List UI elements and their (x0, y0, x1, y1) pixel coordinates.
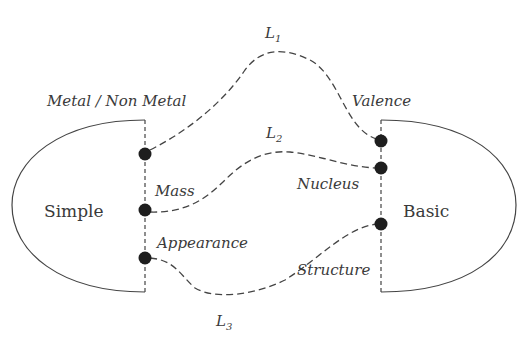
node-metal-nonmetal (139, 148, 152, 161)
link-label-l3: L3 (215, 312, 232, 332)
attr-nucleus: Nucleus (296, 175, 360, 193)
attr-structure: Structure (297, 261, 370, 279)
right-group-basic: Basic (381, 120, 516, 292)
left-group-simple: Simple (12, 120, 145, 292)
right-group-label: Basic (403, 201, 449, 221)
link-label-l1: L1 (264, 24, 281, 44)
node-structure (375, 218, 388, 231)
attr-valence: Valence (352, 92, 411, 110)
attr-metal-nonmetal: Metal / Non Metal (46, 92, 186, 110)
node-mass (139, 204, 152, 217)
node-nucleus (375, 162, 388, 175)
node-valence (375, 135, 388, 148)
attr-mass: Mass (154, 182, 195, 200)
link-label-l2: L2 (265, 124, 282, 144)
left-group-label: Simple (44, 201, 104, 221)
attr-appearance: Appearance (155, 234, 248, 252)
node-appearance (139, 252, 152, 265)
concept-mapping-diagram: Simple Basic Metal / Non Metal Mass Appe… (0, 0, 530, 351)
